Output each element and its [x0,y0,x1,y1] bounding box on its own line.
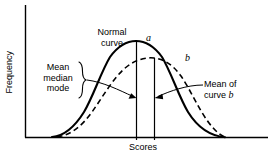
left-brace [79,62,86,98]
curve-b-label: b [185,53,190,64]
mean-of-curve-b-line1: Mean of [204,79,237,89]
mean-of-curve-b-label: Mean ofcurve b [204,79,270,100]
curve-a-label: a [146,33,151,44]
x-axis-label: Scores [113,142,173,153]
statistics-figure: Normalcurve a b Meanmedianmode Mean ofcu… [0,0,273,161]
y-axis-label: Frequency [4,42,15,102]
mean-of-curve-b-line2: curve [204,90,229,100]
normal-curve-label: Normalcurve [84,27,140,48]
mean-of-curve-b-italic: b [229,89,234,100]
mean-median-mode-label: Meanmedianmode [37,62,79,94]
